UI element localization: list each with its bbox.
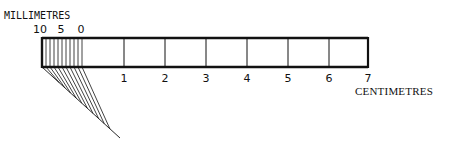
cm-label: 5	[285, 72, 292, 85]
millimetre-hatching	[46, 38, 82, 67]
fan-line	[46, 67, 59, 83]
cm-label: 3	[203, 72, 210, 85]
cm-label: 7	[365, 72, 372, 85]
centimetre-ticks	[124, 38, 329, 67]
fan-line	[78, 67, 104, 124]
centimetres-label: CENTIMETRES	[355, 85, 433, 97]
fan-line	[50, 67, 65, 88]
millimetre-scale-labels: 1050	[33, 23, 85, 36]
mm-label: 0	[78, 23, 85, 36]
millimetres-label: MILLIMETRES	[4, 10, 70, 21]
ruler-body	[42, 37, 368, 68]
fan-line	[82, 67, 110, 129]
cm-label: 4	[244, 72, 251, 85]
cm-label: 2	[162, 72, 169, 85]
centimetre-scale-labels: 1234567	[121, 72, 372, 85]
fan-line	[74, 67, 99, 119]
ruler-diagram: MILLIMETRES 1050 1234567 CENTIMETRES	[0, 0, 456, 149]
cm-label: 6	[326, 72, 333, 85]
mm-label: 5	[58, 23, 65, 36]
diagonal-scale-fan	[42, 67, 120, 138]
cm-label: 1	[121, 72, 128, 85]
mm-label: 10	[33, 23, 47, 36]
